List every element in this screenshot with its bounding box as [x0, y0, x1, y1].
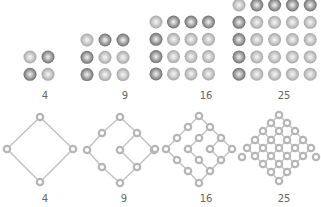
sphere-light [268, 68, 281, 81]
sphere-light [24, 51, 37, 64]
sphere-light [286, 68, 299, 81]
lattice-node [252, 137, 258, 143]
sphere-light [286, 33, 299, 46]
lattice-edge [7, 117, 40, 149]
sphere-light [185, 67, 198, 80]
sphere-light [117, 68, 130, 81]
lattice-node [229, 146, 235, 152]
lattice-node [284, 137, 290, 143]
lattice-label: 4 [42, 193, 48, 204]
sphere-grid-16: 16 [150, 16, 216, 102]
lattice-node [268, 120, 274, 126]
sphere-dark [117, 34, 130, 47]
lattice-9: 9 [84, 114, 157, 204]
lattice-node [152, 146, 158, 152]
sphere-light [304, 68, 317, 81]
lattice-node [196, 180, 202, 186]
sphere-dark [42, 51, 55, 64]
lattice-label: 9 [121, 193, 127, 204]
lattice-node [37, 114, 43, 120]
lattice-node [313, 154, 319, 160]
lattice-node [300, 153, 306, 159]
lattice-node [117, 114, 123, 120]
sphere-grid-25: 25 [233, 0, 317, 101]
lattice-node [196, 157, 202, 163]
sphere-grids: 491625 [24, 0, 317, 101]
lattice-node [207, 146, 213, 152]
sphere-light [286, 50, 299, 63]
lattice-node [308, 145, 314, 151]
sphere-dark [24, 68, 37, 81]
sphere-grid-label: 16 [200, 90, 213, 101]
sphere-dark [150, 33, 163, 46]
sphere-dark [150, 50, 163, 63]
lattice-diagrams: 491625 [4, 112, 319, 204]
sphere-light [286, 16, 299, 29]
lattice-edge [7, 149, 40, 182]
lattice-node [99, 164, 105, 170]
lattice-edge [40, 149, 73, 182]
sphere-light [233, 0, 246, 12]
sphere-light [250, 16, 263, 29]
lattice-node [134, 130, 140, 136]
lattice-4: 4 [4, 114, 76, 204]
lattice-node [276, 178, 282, 184]
lattice-node [207, 124, 213, 130]
lattice-node [185, 168, 191, 174]
lattice-node [292, 145, 298, 151]
sphere-grid-4: 4 [24, 51, 55, 102]
sphere-dark [81, 68, 94, 81]
sphere-light [81, 34, 94, 47]
lattice-node [99, 130, 105, 136]
lattice-node [134, 164, 140, 170]
sphere-dark [99, 34, 112, 47]
lattice-node [117, 147, 123, 153]
lattice-node [300, 137, 306, 143]
lattice-node [84, 147, 90, 153]
sphere-dark [167, 16, 180, 29]
sphere-light [99, 68, 112, 81]
lattice-node [174, 135, 180, 141]
lattice-node [268, 137, 274, 143]
lattice-node [185, 124, 191, 130]
lattice-16: 16 [152, 113, 235, 204]
lattice-node [37, 179, 43, 185]
lattice-label: 16 [200, 193, 213, 204]
sphere-light [117, 51, 130, 64]
lattice-node [252, 153, 258, 159]
lattice-node [218, 135, 224, 141]
sphere-dark [233, 68, 246, 81]
sphere-dark [150, 67, 163, 80]
sphere-light [304, 50, 317, 63]
lattice-node [260, 145, 266, 151]
lattice-node [196, 113, 202, 119]
lattice-node [163, 146, 169, 152]
sphere-light [268, 33, 281, 46]
sphere-light [202, 50, 215, 63]
lattice-node [196, 135, 202, 141]
lattice-node [117, 180, 123, 186]
lattice-node [284, 120, 290, 126]
lattice-node [239, 154, 245, 160]
lattice-node [292, 128, 298, 134]
sphere-dark [233, 50, 246, 63]
sphere-dark [185, 16, 198, 29]
sphere-light [202, 33, 215, 46]
sphere-light [304, 33, 317, 46]
sphere-grid-label: 4 [42, 90, 48, 101]
lattice-node [244, 145, 250, 151]
sphere-light [185, 50, 198, 63]
sphere-light [202, 67, 215, 80]
lattice-node [276, 161, 282, 167]
lattice-node [4, 146, 10, 152]
lattice-node [284, 169, 290, 175]
lattice-node [292, 161, 298, 167]
figure: 491625 491625 [0, 0, 321, 207]
sphere-light [185, 33, 198, 46]
sphere-light [250, 68, 263, 81]
sphere-grid-9: 9 [81, 34, 130, 102]
sphere-dark [304, 0, 317, 12]
lattice-node [185, 146, 191, 152]
lattice-25: 25 [239, 112, 319, 204]
lattice-node [174, 157, 180, 163]
